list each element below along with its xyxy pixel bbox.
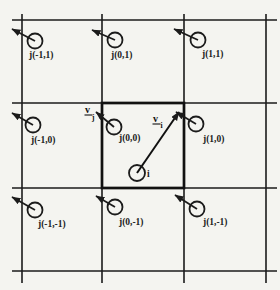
particle-j-0-neg1: j(0,-1) xyxy=(96,196,144,228)
particle-j-neg1-1: j(-1,1) xyxy=(12,29,54,61)
velocity-arrow xyxy=(96,196,115,207)
particle-label: j(0,-1) xyxy=(118,217,144,228)
particle-label: j(1,0) xyxy=(202,134,224,145)
particle-label: j(1,1) xyxy=(201,49,223,60)
particle-grid-diagram: j(-1,1) j(0,1) j(1,1) j(-1,0) j(0,0) j(1… xyxy=(0,0,280,290)
v-i-symbol: v xyxy=(153,113,158,124)
v-j-symbol: v xyxy=(85,104,90,115)
particle-label: j(0,0) xyxy=(118,133,140,144)
particle-label: j(-1,-1) xyxy=(37,219,66,230)
particle-label: j(-1,1) xyxy=(28,50,54,61)
particle-j-neg1-neg1: j(-1,-1) xyxy=(12,197,66,230)
vector-v-i-label: v i xyxy=(153,113,163,130)
particle-label: j(0,1) xyxy=(110,50,132,61)
particle-i-label: i xyxy=(147,169,150,179)
v-j-subscript: j xyxy=(91,113,95,122)
velocity-arrow xyxy=(174,29,198,40)
particle-label: j(1,-1) xyxy=(202,217,228,228)
vector-v-i-arrow xyxy=(137,112,179,173)
particle-j-1-1: j(1,1) xyxy=(174,29,223,60)
center-cell-border xyxy=(102,103,184,188)
particle-label: j(-1,0) xyxy=(30,135,56,146)
particle-j-0-1: j(0,1) xyxy=(92,30,132,61)
vector-v-j-label: v j xyxy=(85,104,96,122)
scanned-grid-figure: j(-1,1) j(0,1) j(1,1) j(-1,0) j(0,0) j(1… xyxy=(0,0,280,290)
particle-j-1-neg1: j(1,-1) xyxy=(175,195,228,228)
particle-j-neg1-0: j(-1,0) xyxy=(12,113,56,146)
velocity-arrow xyxy=(92,30,115,40)
v-i-subscript: i xyxy=(161,121,163,130)
